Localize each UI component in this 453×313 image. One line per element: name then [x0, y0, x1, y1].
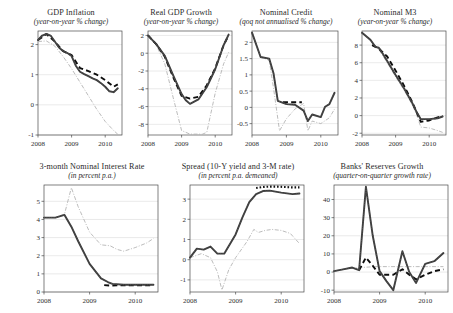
chart-panel-spread: Spread (10-Y yield and 3-M rate)(in perc…: [168, 162, 308, 306]
panel-subtitle-nominal-credit: (qoq not annualised % change): [230, 17, 342, 26]
axis-frame: [190, 185, 304, 292]
x-tick-label: 2008: [31, 140, 46, 148]
plot-area-nominal-m3: -202468200820092010: [340, 26, 450, 149]
x-tick-label: 2010: [314, 140, 329, 148]
axis-frame: [148, 31, 232, 135]
y-tick-label: 2: [31, 41, 35, 49]
y-tick-label: 5: [37, 198, 41, 206]
series-actual-texture: [252, 33, 335, 121]
y-tick-label: -1: [28, 132, 34, 140]
x-tick-label: 2009: [175, 140, 190, 148]
plot-area-real-gdp-growth: -8-6-4-202200820092010: [126, 26, 236, 149]
y-tick-label: 4: [355, 77, 359, 85]
panel-title-bank-reserves: Banks' Reserves Growth: [312, 162, 452, 171]
panel-title-real-gdp-growth: Real GDP Growth: [126, 8, 236, 17]
y-tick-label: 3: [37, 234, 41, 242]
y-tick-label: 0: [31, 102, 35, 110]
y-tick-label: 40: [323, 196, 331, 204]
panel-title-gdp-inflation: GDP Inflation: [16, 8, 126, 17]
y-tick-label: 2: [37, 253, 41, 261]
panel-subtitle-gdp-inflation: (year-on-year % change): [16, 17, 126, 26]
y-tick-label: 0: [327, 269, 331, 277]
panel-subtitle-nominal-m3: (year-on-year % change): [340, 17, 450, 26]
y-tick-label: -6: [138, 103, 144, 111]
panel-title-spread: Spread (10-Y yield and 3-M rate): [168, 162, 308, 171]
x-tick-label: 2009: [279, 140, 294, 148]
series-actual: [44, 215, 153, 285]
x-tick-label: 2009: [229, 297, 244, 305]
y-tick-label: -8: [138, 121, 144, 129]
x-tick-label: 2008: [183, 297, 198, 305]
y-tick-label: -4: [138, 86, 144, 94]
x-tick-label: 2009: [83, 297, 98, 305]
y-tick-label: 1.5: [239, 55, 248, 63]
x-tick-label: 2010: [274, 297, 289, 305]
x-tick-label: 2008: [245, 140, 260, 148]
y-tick-label: 1: [37, 271, 41, 279]
y-tick-label: 1: [245, 72, 249, 80]
series-forecast_dashed: [359, 258, 443, 280]
chart-panel-nominal-m3: Nominal M3(year-on-year % change)-202468…: [340, 8, 450, 149]
x-tick-label: 2010: [98, 140, 113, 148]
x-tick-label: 2008: [355, 140, 370, 148]
y-tick-label: 0.5: [239, 88, 248, 96]
y-tick-label: -1: [180, 277, 186, 285]
x-tick-label: 2010: [208, 140, 223, 148]
series-dotted: [256, 187, 299, 188]
chart-panel-bank-reserves: Banks' Reserves Growth(quarter-on-quarte…: [312, 162, 452, 306]
y-tick-label: 10: [323, 251, 331, 259]
figure-panel-grid: GDP Inflation(year-on-year % change)-101…: [0, 0, 453, 313]
x-tick-label: 2009: [373, 297, 388, 305]
axis-frame: [252, 31, 338, 135]
panel-title-nominal-credit: Nominal Credit: [230, 8, 342, 17]
x-tick-label: 2010: [128, 297, 143, 305]
series-actual: [190, 191, 299, 258]
x-tick-label: 2008: [327, 297, 342, 305]
panel-subtitle-bank-reserves: (quarter-on-quarter growth rate): [312, 171, 452, 180]
y-tick-label: 8: [355, 42, 359, 50]
y-tick-label: -0.5: [237, 120, 249, 128]
y-tick-label: 1: [31, 72, 35, 80]
y-tick-label: 4: [37, 216, 41, 224]
panel-subtitle-spread: (in percent p.a. demeaned): [168, 171, 308, 180]
x-tick-label: 2008: [37, 297, 52, 305]
series-actual-texture: [148, 35, 229, 104]
x-tick-label: 2008: [141, 140, 156, 148]
y-tick-label: 0: [183, 257, 187, 265]
chart-panel-gdp-inflation: GDP Inflation(year-on-year % change)-101…: [16, 8, 126, 149]
plot-area-gdp-inflation: -1012200820092010: [16, 26, 126, 149]
axis-frame: [334, 185, 448, 292]
panel-subtitle-real-gdp-growth: (year-on-year % change): [126, 17, 236, 26]
y-tick-label: 3: [183, 196, 187, 204]
y-tick-label: -2: [352, 130, 358, 138]
x-tick-label: 2009: [65, 140, 80, 148]
y-tick-label: 20: [323, 233, 331, 241]
x-tick-label: 2009: [389, 140, 404, 148]
y-tick-label: 2: [245, 39, 249, 47]
series-actual: [362, 33, 443, 119]
panel-title-interest-rate: 3-month Nominal Interest Rate: [22, 162, 162, 171]
y-tick-label: 0: [245, 104, 249, 112]
series-forecast_dashed: [372, 46, 443, 123]
y-tick-label: 0: [141, 50, 145, 58]
chart-panel-interest-rate: 3-month Nominal Interest Rate(in percent…: [22, 162, 162, 306]
y-tick-label: 30: [323, 214, 331, 222]
y-tick-label: -10: [321, 287, 331, 295]
y-tick-label: 0: [355, 112, 359, 120]
y-tick-label: 2: [141, 32, 145, 40]
series-actual: [148, 35, 229, 104]
chart-panel-real-gdp-growth: Real GDP Growth(year-on-year % change)-8…: [126, 8, 236, 149]
plot-area-interest-rate: 012345200820092010: [22, 180, 162, 306]
y-tick-label: 2: [355, 95, 359, 103]
chart-panel-nominal-credit: Nominal Credit(qoq not annualised % chan…: [230, 8, 342, 149]
x-tick-label: 2010: [418, 297, 433, 305]
y-tick-label: 6: [355, 60, 359, 68]
plot-area-nominal-credit: -0.500.511.52200820092010: [230, 26, 342, 149]
series-actual: [252, 33, 335, 121]
plot-area-spread: -10123200820092010: [168, 180, 308, 306]
y-tick-label: 2: [183, 216, 187, 224]
y-tick-label: 0: [37, 289, 41, 297]
plot-area-bank-reserves: -10010203040200820092010: [312, 180, 452, 306]
panel-title-nominal-m3: Nominal M3: [340, 8, 450, 17]
x-tick-label: 2010: [422, 140, 437, 148]
